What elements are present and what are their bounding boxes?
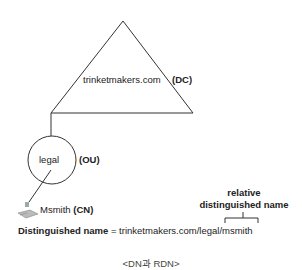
figure-caption: <DN과 RDN> xyxy=(0,256,302,270)
dn-label: Distinguished name xyxy=(18,225,108,236)
ou-to-cn-connector xyxy=(29,170,51,202)
dn-path-prefix: trinketmakers.com/legal/ xyxy=(119,225,222,236)
distinguished-name-line: Distinguished name = trinketmakers.com/l… xyxy=(18,226,253,236)
cn-name: Msmith xyxy=(40,204,71,215)
ou-tag-label: (OU) xyxy=(79,155,100,165)
cn-label: Msmith (CN) xyxy=(40,205,93,215)
computer-icon xyxy=(0,201,38,218)
rdn-label-line2: distinguished name xyxy=(196,199,292,211)
ou-name-label: legal xyxy=(39,155,59,165)
rdn-bracket xyxy=(225,212,258,223)
dn-equals: = xyxy=(108,225,119,236)
dc-tag-label: (DC) xyxy=(172,75,192,85)
domain-triangle xyxy=(51,21,193,113)
domain-name-label: trinketmakers.com xyxy=(83,75,161,85)
cn-tag: (CN) xyxy=(73,204,93,215)
rdn-label: relative distinguished name xyxy=(196,187,292,211)
rdn-label-line1: relative xyxy=(196,187,292,199)
dn-rdn-part: msmith xyxy=(222,225,253,236)
